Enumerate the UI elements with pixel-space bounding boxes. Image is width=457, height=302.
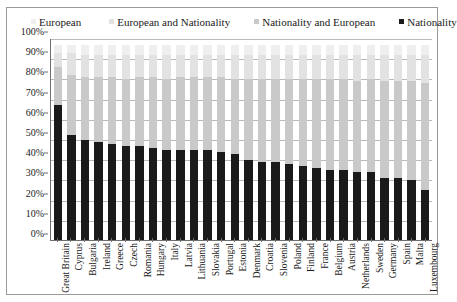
bar-column[interactable]: [242, 39, 256, 240]
y-axis: 100%90%80%70%60%50%40%30%20%10%0%: [7, 32, 48, 234]
legend-item-european-and-nationality[interactable]: European and Nationality: [109, 16, 230, 28]
bar-segment: [149, 45, 157, 55]
x-axis-tick-mark: [57, 238, 58, 242]
x-axis-label-slot: Estonia: [227, 242, 241, 302]
bar-segment: [285, 45, 293, 55]
bar-column[interactable]: [310, 39, 324, 240]
x-axis-label-slot: Sweden: [364, 242, 378, 302]
y-axis-tick-label: 30%: [26, 168, 44, 178]
legend-item-nationality-and-european[interactable]: Nationality and European: [254, 16, 375, 28]
bar-column[interactable]: [173, 39, 187, 240]
bar-stack: [271, 39, 279, 240]
bar-segment: [135, 55, 143, 77]
bar-segment: [217, 77, 225, 151]
bar-column[interactable]: [418, 39, 432, 240]
bar-column[interactable]: [323, 39, 337, 240]
y-axis-tick-label: 70%: [26, 88, 44, 98]
bar-stack: [108, 39, 116, 240]
bar-column[interactable]: [378, 39, 392, 240]
bar-segment: [394, 45, 402, 55]
bar-segment: [380, 45, 388, 55]
x-axis-tick-mark: [316, 238, 317, 242]
y-axis-tick-mark: [44, 153, 48, 154]
bar-column[interactable]: [92, 39, 106, 240]
x-axis-label-slot: Great Britain: [50, 242, 64, 302]
bar-column[interactable]: [187, 39, 201, 240]
bar-column[interactable]: [405, 39, 419, 240]
bar-column[interactable]: [364, 39, 378, 240]
x-axis-label-slot: Slovakia: [200, 242, 214, 302]
bar-segment: [108, 77, 116, 143]
y-axis-tick-label: 20%: [26, 189, 44, 199]
bar-segment: [244, 79, 252, 159]
y-axis-tick-mark: [44, 92, 48, 93]
bar-column[interactable]: [269, 39, 283, 240]
x-axis-tick-mark: [398, 238, 399, 242]
bar-segment: [367, 45, 375, 55]
bar-segment: [108, 144, 116, 240]
y-axis-tick-mark: [44, 52, 48, 53]
bar-stack: [94, 39, 102, 240]
bar-segment: [81, 55, 89, 77]
x-axis-label-slot: Ireland: [91, 242, 105, 302]
y-axis-tick-mark: [44, 234, 48, 235]
bar-stack: [258, 39, 266, 240]
bar-segment: [149, 55, 157, 77]
bar-segment: [353, 81, 361, 171]
bar-segment: [380, 81, 388, 177]
bar-column[interactable]: [105, 39, 119, 240]
x-axis-tick-mark: [371, 238, 372, 242]
bar-segment: [407, 45, 415, 55]
bar-segment: [299, 166, 307, 240]
bar-column[interactable]: [146, 39, 160, 240]
x-axis-label-slot: Netherlands: [350, 242, 364, 302]
chart-legend: European European and Nationality Nation…: [7, 13, 439, 31]
chart-frame: European European and Nationality Nation…: [6, 7, 438, 295]
bar-column[interactable]: [228, 39, 242, 240]
bar-segment: [421, 190, 429, 240]
bar-segment: [367, 79, 375, 171]
x-axis-label-slot: Belgium: [323, 242, 337, 302]
bar-column[interactable]: [65, 39, 79, 240]
bar-segment: [407, 55, 415, 81]
bar-segment: [326, 45, 334, 55]
bar-segment: [244, 55, 252, 79]
bar-column[interactable]: [214, 39, 228, 240]
bar-column[interactable]: [337, 39, 351, 240]
bar-column[interactable]: [78, 39, 92, 240]
y-axis-tick-mark: [44, 173, 48, 174]
bar-column[interactable]: [160, 39, 174, 240]
bar-column[interactable]: [296, 39, 310, 240]
x-axis-label-slot: Greece: [105, 242, 119, 302]
x-axis-label-slot: Germany: [377, 242, 391, 302]
x-axis-tick-mark: [425, 238, 426, 242]
x-axis-label-slot: Lithuania: [186, 242, 200, 302]
bar-stack: [203, 39, 211, 240]
bar-column[interactable]: [350, 39, 364, 240]
bar-column[interactable]: [255, 39, 269, 240]
bar-segment: [203, 45, 211, 55]
bar-column[interactable]: [201, 39, 215, 240]
x-axis-labels: Great BritainCyprusBulgariaIrelandGreece…: [50, 242, 432, 302]
legend-item-nationality[interactable]: Nationality: [399, 16, 457, 28]
square-swatch-icon: [399, 19, 404, 24]
bar-segment: [122, 45, 130, 55]
bar-stack: [135, 39, 143, 240]
bar-segment: [162, 150, 170, 240]
bar-column[interactable]: [51, 39, 65, 240]
bar-stack: [407, 39, 415, 240]
x-axis-label-slot: Romania: [132, 242, 146, 302]
bar-column[interactable]: [133, 39, 147, 240]
x-axis-label-slot: France: [309, 242, 323, 302]
bar-column[interactable]: [282, 39, 296, 240]
bar-segment: [380, 55, 388, 81]
y-axis-tick-mark: [44, 133, 48, 134]
bar-segment: [312, 168, 320, 240]
bar-segment: [231, 45, 239, 55]
x-axis-label-slot: Malta: [405, 242, 419, 302]
bar-segment: [326, 55, 334, 79]
bar-column[interactable]: [119, 39, 133, 240]
bar-segment: [421, 45, 429, 55]
x-axis-tick-label: Luxembourg: [430, 243, 440, 292]
bar-column[interactable]: [391, 39, 405, 240]
